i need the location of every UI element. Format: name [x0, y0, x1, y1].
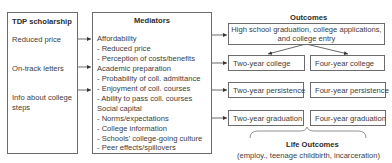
mediator-line: - Reduced price [97, 44, 151, 53]
input-reduced-price: Reduced price [12, 35, 61, 44]
outcome-four-year-college: Four-year college [310, 55, 385, 71]
life-outcomes-subtitle: (employ., teenage childbirth, incarcerat… [237, 151, 380, 160]
mediator-line: - Perception of costs/benefits [97, 54, 195, 63]
outcome-two-year-graduation: Two-year graduation [228, 110, 304, 126]
mediator-line: - College information [97, 124, 167, 133]
outcome-two-year-college: Two-year college [228, 55, 305, 71]
mediators-title: Mediators [134, 16, 170, 25]
outcomes-title: Outcomes [290, 13, 327, 22]
input-info-college-steps: steps [12, 103, 30, 112]
tdp-scholarship-title: TDP scholarship [12, 17, 72, 26]
tdp-scholarship-box [7, 12, 78, 154]
mediator-line: - Probability of coll. admittance [97, 74, 200, 83]
input-info-college: Info about college [12, 93, 72, 102]
mediator-line: - Peer effects/spillovers [97, 143, 176, 152]
life-outcomes-title: Life Outcomes [286, 140, 339, 149]
outcome-four-year-persistence: Four-year persistence [310, 82, 386, 98]
outcome-four-year-graduation: Four-year graduation [310, 110, 386, 126]
outcome-hs-graduation-box: High school graduation, college applicat… [228, 23, 385, 45]
mediator-line: Affordability [97, 34, 137, 43]
mediator-line: - Norms/expectations [97, 114, 169, 123]
outcome-hs-line2: and college entry [278, 34, 336, 43]
mediator-line: Social capital [97, 104, 142, 113]
mediator-line: - Schools' college-going culture [97, 134, 202, 143]
outcome-hs-line1: High school graduation, college applicat… [231, 25, 381, 34]
outcome-two-year-persistence: Two-year persistence [228, 82, 304, 98]
mediator-line: - Enjoyment of coll. courses [97, 84, 190, 93]
input-on-track-letters: On-track letters [12, 64, 64, 73]
mediator-line: Academic preparation [97, 64, 171, 73]
mediator-line: - Ability to pass coll. courses [97, 94, 192, 103]
